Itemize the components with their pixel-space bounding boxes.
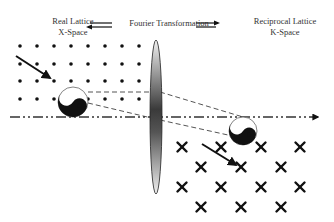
reciprocal-lattice-title: Reciprocal Lattice	[240, 16, 330, 27]
lattice-dot	[103, 44, 107, 48]
lattice-dot	[52, 44, 56, 48]
real-lattice-label: Real Lattice X-Space	[38, 16, 108, 38]
lattice-dot	[18, 79, 22, 83]
lattice-dot	[86, 44, 90, 48]
lattice-dot	[137, 62, 141, 66]
lattice-dot	[52, 97, 56, 101]
lattice-cross-icon	[197, 163, 206, 172]
yin-yang-right-icon	[224, 117, 259, 150]
lattice-dot	[35, 97, 39, 101]
lattice-dot	[35, 79, 39, 83]
lattice-dot	[86, 79, 90, 83]
lattice-dot	[137, 44, 141, 48]
lattice-cross-icon	[296, 143, 305, 152]
lattice-cross-icon	[296, 183, 305, 192]
lattice-dot	[69, 79, 73, 83]
lattice-cross-icon	[237, 163, 246, 172]
lattice-dot	[120, 62, 124, 66]
reciprocal-lattice-label: Reciprocal Lattice K-Space	[240, 16, 330, 38]
lattice-dot	[52, 62, 56, 66]
lattice-dot	[35, 44, 39, 48]
x-space-title: X-Space	[38, 27, 108, 38]
lattice-dot	[18, 44, 22, 48]
lattice-dot	[120, 97, 124, 101]
scattered-arrow-icon	[202, 144, 236, 165]
lattice-dot	[52, 79, 56, 83]
lattice-cross-icon	[257, 143, 266, 152]
lattice-cross-icon	[178, 183, 187, 192]
k-space-title: K-Space	[240, 27, 330, 38]
lattice-dot	[120, 44, 124, 48]
fourier-diagram: Real Lattice X-Space Fourier Transformat…	[0, 0, 334, 222]
incident-arrow-icon	[16, 56, 50, 78]
real-lattice-title: Real Lattice	[38, 16, 108, 27]
lattice-cross-icon	[277, 203, 286, 212]
lattice-dot	[18, 62, 22, 66]
reciprocal-lattice-crosses	[178, 143, 305, 212]
lattice-cross-icon	[277, 163, 286, 172]
fourier-label: Fourier Transformation	[114, 18, 224, 29]
lattice-dot	[18, 97, 22, 101]
lattice-dot	[120, 79, 124, 83]
lattice-dot	[103, 79, 107, 83]
lattice-cross-icon	[217, 183, 226, 192]
lattice-dot	[69, 62, 73, 66]
lattice-dot	[103, 97, 107, 101]
lattice-dot	[137, 79, 141, 83]
dashed-rays	[88, 92, 243, 135]
lattice-cross-icon	[178, 143, 187, 152]
lattice-cross-icon	[257, 183, 266, 192]
lattice-dot	[86, 62, 90, 66]
lattice-dot	[103, 62, 107, 66]
lattice-dot	[35, 62, 39, 66]
lattice-cross-icon	[237, 203, 246, 212]
lattice-cross-icon	[197, 203, 206, 212]
lattice-dot	[69, 44, 73, 48]
lattice-dot	[137, 97, 141, 101]
lattice-cross-icon	[217, 143, 226, 152]
lens-icon	[150, 40, 162, 194]
